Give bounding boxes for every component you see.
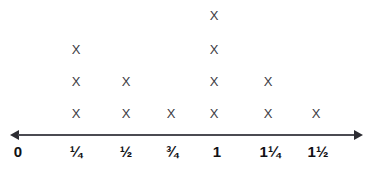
data-point-x-mark: X — [260, 106, 276, 122]
axis-tick-label: 1½ — [308, 142, 329, 162]
data-point-x-mark: X — [118, 74, 134, 90]
data-point-x-mark: X — [68, 74, 84, 90]
data-point-x-mark: X — [206, 106, 222, 122]
data-point-x-mark: X — [206, 74, 222, 90]
axis-tick-labels: 0¼½¾11¼1½ — [0, 142, 375, 166]
axis-tick-label: 0 — [14, 142, 22, 162]
data-point-x-mark: X — [163, 106, 179, 122]
axis-tick-label: ½ — [120, 142, 133, 162]
axis-tick-label: ¼ — [70, 142, 83, 162]
axis-tick-label: 1¼ — [260, 142, 281, 162]
data-point-x-mark: X — [260, 74, 276, 90]
axis-tick-label: 1 — [213, 142, 221, 162]
axis-tick-label: ¾ — [166, 142, 179, 162]
axis-right-arrow-icon — [354, 130, 363, 140]
data-point-x-mark: X — [118, 106, 134, 122]
data-point-x-mark: X — [68, 42, 84, 58]
data-point-x-mark: X — [68, 106, 84, 122]
data-point-x-mark: X — [206, 42, 222, 58]
data-point-x-mark: X — [206, 8, 222, 24]
data-point-x-mark: X — [308, 106, 324, 122]
axis-line — [18, 134, 356, 136]
dot-plot-figure: XXXXXXXXXXXXX 0¼½¾11¼1½ — [0, 0, 375, 169]
plot-area: XXXXXXXXXXXXX — [0, 0, 375, 132]
